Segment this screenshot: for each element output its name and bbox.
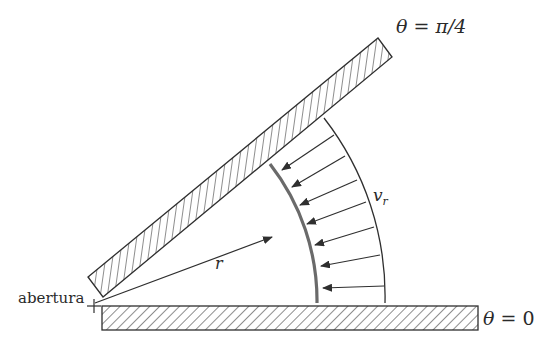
top-theta: θ xyxy=(396,15,407,37)
outer-arc xyxy=(324,118,385,303)
radius-label: r xyxy=(215,254,223,273)
top-value: π/4 xyxy=(435,15,466,37)
bottom-theta: θ xyxy=(483,307,494,329)
velocity-symbol: v xyxy=(373,185,383,205)
top-wall xyxy=(88,38,392,297)
inner-arc xyxy=(270,164,317,303)
bottom-wall xyxy=(102,306,478,330)
bottom-wall-angle-label: θ = 0 xyxy=(483,307,535,329)
velocity-label: vr xyxy=(373,185,388,208)
aperture-label: abertura xyxy=(18,289,84,307)
bottom-eq: = xyxy=(494,307,522,329)
top-eq: = xyxy=(407,15,435,37)
top-wall-angle-label: θ = π/4 xyxy=(396,15,466,37)
bottom-value: 0 xyxy=(522,307,534,329)
velocity-subscript: r xyxy=(383,195,388,208)
